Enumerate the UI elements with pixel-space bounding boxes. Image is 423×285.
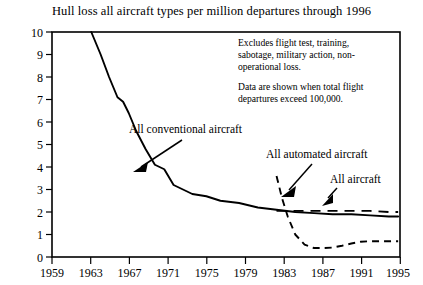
note-threshold-line-1: Data are shown when total flight xyxy=(238,81,364,92)
x-tick-label-1967: 1967 xyxy=(117,266,141,280)
x-tick-label-1983: 1983 xyxy=(272,266,296,280)
arrow-head-all xyxy=(322,194,333,206)
y-tick-label-6: 6 xyxy=(37,116,43,130)
y-tick-label-1: 1 xyxy=(37,228,43,242)
label-all-aircraft: All aircraft xyxy=(330,173,382,185)
x-tick-label-1963: 1963 xyxy=(79,266,103,280)
note-threshold-line-2: departures exceed 100,000. xyxy=(238,93,343,104)
note-threshold: Data are shown when total flight departu… xyxy=(238,81,364,104)
y-tick-label-10: 10 xyxy=(31,26,43,40)
label-all-automated-aircraft: All automated aircraft xyxy=(266,148,368,160)
x-tick-label-1971: 1971 xyxy=(156,266,180,280)
x-tick-label-1979: 1979 xyxy=(234,266,258,280)
arrow-head-automated xyxy=(281,186,296,197)
x-tick-label-1975: 1975 xyxy=(195,266,219,280)
callout-all-aircraft: All aircraft xyxy=(322,173,382,206)
y-tick-label-0: 0 xyxy=(37,251,43,265)
leader-line-automated xyxy=(289,164,312,190)
y-tick-label-2: 2 xyxy=(37,206,43,220)
y-tick-label-3: 3 xyxy=(37,183,43,197)
note-exclusions-line-3: operational loss. xyxy=(238,61,301,72)
label-all-conventional-aircraft: All conventional aircraft xyxy=(129,123,243,135)
callout-all-conventional-aircraft: All conventional aircraft xyxy=(129,123,243,172)
note-exclusions: Excludes flight test, training, sabotage… xyxy=(238,37,355,72)
y-tick-label-5: 5 xyxy=(37,138,43,152)
x-tick-label-1991: 1991 xyxy=(350,266,374,280)
y-tick-label-7: 7 xyxy=(37,93,43,107)
chart-page: Hull loss all aircraft types per million… xyxy=(0,0,423,285)
y-tick-label-8: 8 xyxy=(37,71,43,85)
x-tick-label-1995: 1995 xyxy=(386,266,410,280)
x-tick-label-1959: 1959 xyxy=(40,266,64,280)
arrow-head-conventional xyxy=(133,162,148,172)
x-axis: 1959 1963 1967 1971 1975 1979 1983 1987 … xyxy=(40,257,410,280)
note-exclusions-line-1: Excludes flight test, training, xyxy=(238,37,349,48)
y-axis: 10 9 8 7 6 5 4 3 2 1 0 xyxy=(31,26,52,265)
note-exclusions-line-2: sabotage, military action, non- xyxy=(238,49,355,60)
line-chart: 10 9 8 7 6 5 4 3 2 1 0 1959 xyxy=(0,0,423,285)
x-tick-label-1987: 1987 xyxy=(311,266,335,280)
y-tick-label-4: 4 xyxy=(37,161,43,175)
y-tick-label-9: 9 xyxy=(37,48,43,62)
